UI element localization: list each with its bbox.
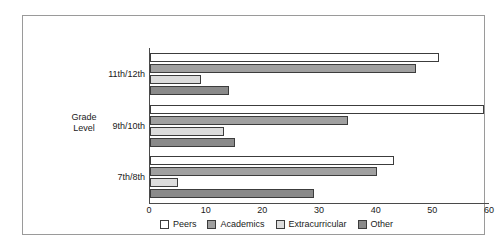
category-label: 11th/12th <box>79 69 145 79</box>
bar[interactable] <box>150 86 229 95</box>
bar[interactable] <box>150 127 224 136</box>
bar[interactable] <box>150 189 314 198</box>
x-tick-label: 20 <box>250 205 274 215</box>
legend-swatch-icon <box>276 220 285 229</box>
x-tick-label: 10 <box>194 205 218 215</box>
bar[interactable] <box>150 105 484 114</box>
bar[interactable] <box>150 116 348 125</box>
legend-label: Academics <box>220 219 264 229</box>
bar[interactable] <box>150 178 178 187</box>
category-label: 7th/8th <box>79 172 145 182</box>
bar[interactable] <box>150 53 439 62</box>
legend-label: Other <box>371 219 394 229</box>
x-tick-label: 40 <box>364 205 388 215</box>
x-axis-tick-labels: 0102030405060 <box>149 205 494 219</box>
bar[interactable] <box>150 138 235 147</box>
bar-group <box>150 105 490 147</box>
legend-swatch-icon <box>160 220 169 229</box>
bar-group <box>150 53 490 95</box>
legend-swatch-icon <box>207 220 216 229</box>
legend-swatch-icon <box>358 220 367 229</box>
plot-area <box>149 48 489 203</box>
legend-item[interactable]: Extracurricular <box>276 219 347 229</box>
x-axis-line <box>149 203 489 204</box>
legend-item[interactable]: Other <box>358 219 394 229</box>
x-tick-label: 60 <box>477 205 501 215</box>
legend-item[interactable]: Academics <box>207 219 264 229</box>
x-tick-label: 0 <box>137 205 161 215</box>
bar[interactable] <box>150 156 394 165</box>
bar[interactable] <box>150 167 377 176</box>
bar[interactable] <box>150 75 201 84</box>
x-tick-label: 30 <box>307 205 331 215</box>
x-tick-label: 50 <box>420 205 444 215</box>
legend-label: Peers <box>173 219 197 229</box>
chart-frame: Grade Level 11th/12th9th/10th7th/8th 010… <box>22 15 485 235</box>
bar[interactable] <box>150 64 416 73</box>
chart-legend: PeersAcademicsExtracurricularOther <box>45 219 501 229</box>
category-label-group: 11th/12th9th/10th7th/8th <box>61 16 145 202</box>
bar-group <box>150 156 490 198</box>
legend-item[interactable]: Peers <box>160 219 197 229</box>
category-label: 9th/10th <box>79 121 145 131</box>
legend-label: Extracurricular <box>289 219 347 229</box>
